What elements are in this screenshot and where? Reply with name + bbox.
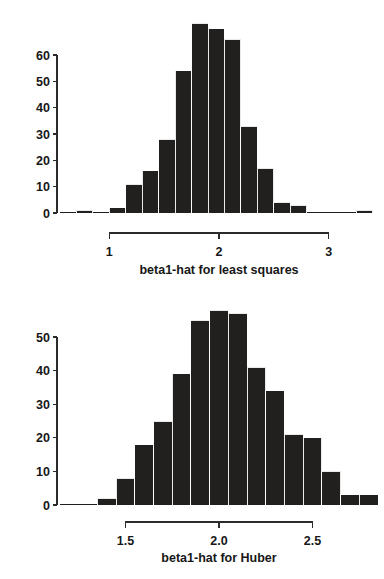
histogram-bar [356,210,372,213]
y-axis-tick-label: 40 [36,364,50,378]
y-axis-tick-label: 40 [36,101,50,115]
x-axis-title: beta1-hat for Huber [161,551,276,565]
y-axis: 0102030405060 [36,49,57,221]
histogram-bar [172,374,191,505]
histogram-huber: 010203040501.52.02.5beta1-hat for Huber [0,290,384,579]
y-axis-tick-label: 10 [36,465,50,479]
histogram-bar [175,71,191,213]
histogram-bar [340,212,356,213]
histogram-bar [79,504,98,505]
y-axis-tick-label: 20 [36,154,50,168]
x-axis-tick-label: 3 [325,245,332,259]
histogram-bar [257,168,273,213]
histogram-bar [126,184,142,213]
histogram-bar [322,471,341,505]
histogram-bar [154,421,173,505]
histogram-bars [60,310,378,505]
histogram-bar [192,23,208,213]
histogram-bar [109,208,125,213]
histogram-bar [210,310,229,505]
histogram-bars [60,23,373,213]
histogram-bar [247,367,266,505]
x-axis-tick-label: 2.5 [304,534,321,548]
histogram-bar [303,438,322,505]
histogram-bar [116,478,135,505]
y-axis-tick-label: 50 [36,331,50,345]
histogram-bar [159,139,175,213]
huber-plot-area: 010203040501.52.02.5beta1-hat for Huber [0,290,384,579]
x-axis: 1.52.02.5 [117,522,321,548]
y-axis-tick-label: 30 [36,128,50,142]
histogram-bar [208,29,224,213]
histogram-bar [76,210,92,213]
y-axis: 01020304050 [36,331,57,513]
histogram-bar [142,171,158,213]
y-axis-tick-label: 10 [36,180,50,194]
histogram-bar [224,39,240,213]
histogram-bar [228,313,247,505]
histogram-bar [341,495,360,505]
histogram-bar [290,205,306,213]
histogram-bar [284,434,303,505]
x-axis-tick-label: 2 [216,245,223,259]
histogram-bar [274,202,290,213]
x-axis: 123 [106,233,332,259]
histogram-bar [323,212,339,213]
histogram-bar [60,504,79,505]
histogram-bar [266,391,285,505]
x-axis-tick-label: 1.5 [117,534,134,548]
y-axis-tick-label: 30 [36,398,50,412]
least-squares-plot-area: 0102030405060123beta1-hat for least squa… [0,0,384,290]
histogram-bar [307,212,323,213]
x-axis-tick-label: 2.0 [210,534,227,548]
y-axis-tick-label: 0 [43,499,50,513]
histogram-bar [359,495,378,505]
histogram-bar [241,126,257,213]
y-axis-tick-label: 50 [36,75,50,89]
x-axis-title: beta1-hat for least squares [139,263,298,277]
histogram-least-squares: 0102030405060123beta1-hat for least squa… [0,0,384,290]
y-axis-tick-label: 20 [36,431,50,445]
histogram-bar [60,212,76,213]
x-axis-tick-label: 1 [106,245,113,259]
histogram-bar [135,445,154,505]
histogram-bar [191,320,210,505]
y-axis-tick-label: 0 [43,207,50,221]
histogram-bar [97,498,116,505]
y-axis-tick-label: 60 [36,49,50,63]
histogram-bar [93,212,109,213]
